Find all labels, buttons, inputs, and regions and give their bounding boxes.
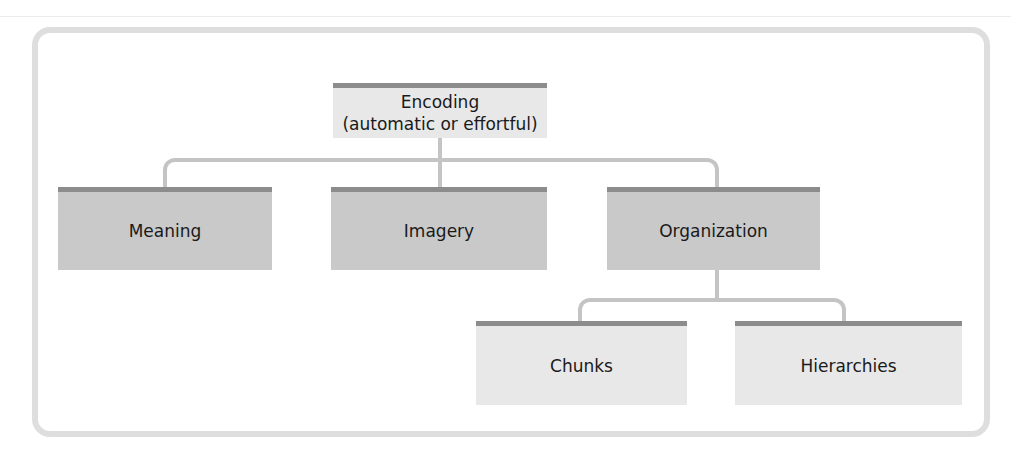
node-imagery-label: Imagery xyxy=(404,220,474,242)
node-meaning-label: Meaning xyxy=(129,220,202,242)
node-hierarchies: Hierarchies xyxy=(735,321,962,405)
node-meaning: Meaning xyxy=(58,187,272,270)
node-hierarchies-label: Hierarchies xyxy=(800,355,896,377)
node-chunks: Chunks xyxy=(476,321,687,405)
node-encoding: Encoding (automatic or effortful) xyxy=(333,83,547,138)
node-chunks-label: Chunks xyxy=(550,355,613,377)
top-divider xyxy=(0,16,1011,17)
node-encoding-subtitle: (automatic or effortful) xyxy=(342,113,537,135)
node-organization: Organization xyxy=(607,187,820,270)
connector-organization-down xyxy=(715,270,719,300)
node-imagery: Imagery xyxy=(331,187,547,270)
connector-level1-bar xyxy=(163,158,719,190)
node-encoding-title: Encoding xyxy=(401,91,479,113)
node-organization-label: Organization xyxy=(659,220,768,242)
